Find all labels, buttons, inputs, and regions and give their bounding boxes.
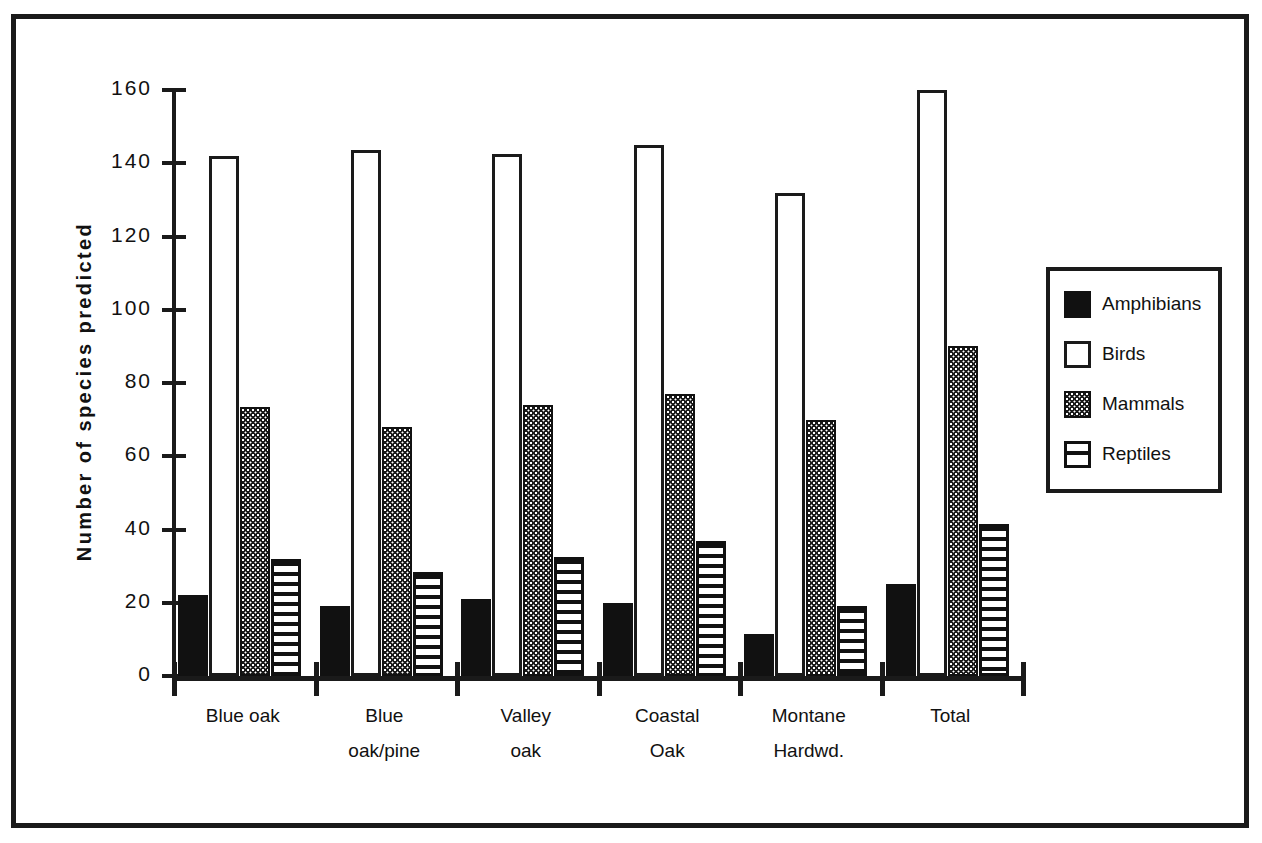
legend-swatch-amphibians-icon — [1064, 291, 1091, 318]
x-axis-category-label: CoastalOak — [597, 698, 739, 768]
y-axis-tick — [162, 308, 186, 312]
figure-canvas: 020406080100120140160 Number of species … — [0, 0, 1262, 843]
legend-swatch-mammals-icon — [1064, 391, 1091, 418]
bar-amphibians — [178, 595, 208, 676]
bar-birds — [775, 193, 805, 676]
y-axis-tick — [162, 161, 186, 165]
x-axis-separator-tick — [597, 662, 602, 696]
y-axis-tick-label-slot: 160 — [66, 76, 152, 100]
bar-chart-plot: 020406080100120140160 Number of species … — [0, 0, 1262, 843]
x-axis-separator-tick — [880, 662, 885, 696]
bar-amphibians — [744, 634, 774, 676]
bar-reptiles — [979, 524, 1009, 676]
category-label-line-1: Coastal — [635, 705, 699, 726]
bar-birds — [634, 145, 664, 676]
x-axis-separator-tick — [738, 662, 743, 696]
x-axis-category-label: Blueoak/pine — [314, 698, 456, 768]
x-axis-separator-tick — [172, 662, 177, 696]
y-axis-tick-label: 160 — [72, 76, 152, 100]
y-axis-tick — [162, 235, 186, 239]
legend-swatch-birds-icon — [1064, 341, 1091, 368]
bar-birds — [351, 150, 381, 676]
legend-label: Birds — [1102, 343, 1145, 365]
legend-swatch-reptiles-icon — [1064, 441, 1091, 468]
bar-reptiles — [271, 559, 301, 676]
bar-reptiles — [696, 541, 726, 677]
bar-reptiles — [554, 557, 584, 676]
category-label-line-1: Valley — [501, 705, 551, 726]
y-axis-tick — [162, 88, 186, 92]
bar-birds — [209, 156, 239, 676]
bar-birds — [492, 154, 522, 676]
legend-label: Mammals — [1102, 393, 1184, 415]
legend-label: Amphibians — [1102, 293, 1201, 315]
category-label-line-2: oak — [455, 733, 597, 768]
chart-legend: AmphibiansBirdsMammalsReptiles — [1046, 267, 1222, 493]
category-label-line-1: Blue — [365, 705, 403, 726]
y-axis-tick-label-slot: 0 — [66, 662, 152, 686]
bar-mammals — [382, 427, 412, 676]
bar-birds — [917, 90, 947, 676]
x-axis-category-label: MontaneHardwd. — [738, 698, 880, 768]
x-axis-separator-tick — [314, 662, 319, 696]
legend-item-mammals: Mammals — [1064, 389, 1184, 419]
y-axis-tick-label-slot: 140 — [66, 149, 152, 173]
y-axis-tick — [162, 528, 186, 532]
legend-item-amphibians: Amphibians — [1064, 289, 1201, 319]
category-label-line-2: Hardwd. — [738, 733, 880, 768]
bar-amphibians — [603, 603, 633, 676]
x-axis-category-label: Valleyoak — [455, 698, 597, 768]
bar-reptiles — [837, 606, 867, 676]
bar-mammals — [240, 407, 270, 676]
y-axis-line — [172, 90, 176, 680]
y-axis-title: Number of species predicted — [73, 182, 96, 602]
category-label-line-1: Blue oak — [206, 705, 280, 726]
bar-mammals — [523, 405, 553, 676]
bar-mammals — [665, 394, 695, 676]
bar-mammals — [806, 420, 836, 676]
x-axis-separator-tick — [455, 662, 460, 696]
x-axis-separator-tick — [1021, 662, 1026, 696]
x-axis-category-label: Total — [880, 698, 1022, 733]
y-axis-tick — [162, 454, 186, 458]
category-label-line-2: Oak — [597, 733, 739, 768]
bar-mammals — [948, 346, 978, 676]
x-axis-category-label: Blue oak — [172, 698, 314, 733]
y-axis-tick — [162, 381, 186, 385]
bar-reptiles — [413, 572, 443, 676]
y-axis-tick-label: 140 — [72, 149, 152, 173]
y-axis-tick-label: 0 — [72, 662, 152, 686]
bar-amphibians — [320, 606, 350, 676]
legend-label: Reptiles — [1102, 443, 1171, 465]
bar-amphibians — [886, 584, 916, 676]
bar-amphibians — [461, 599, 491, 676]
category-label-line-1: Total — [930, 705, 970, 726]
legend-item-reptiles: Reptiles — [1064, 439, 1171, 469]
category-label-line-2: oak/pine — [314, 733, 456, 768]
category-label-line-1: Montane — [772, 705, 846, 726]
legend-item-birds: Birds — [1064, 339, 1145, 369]
